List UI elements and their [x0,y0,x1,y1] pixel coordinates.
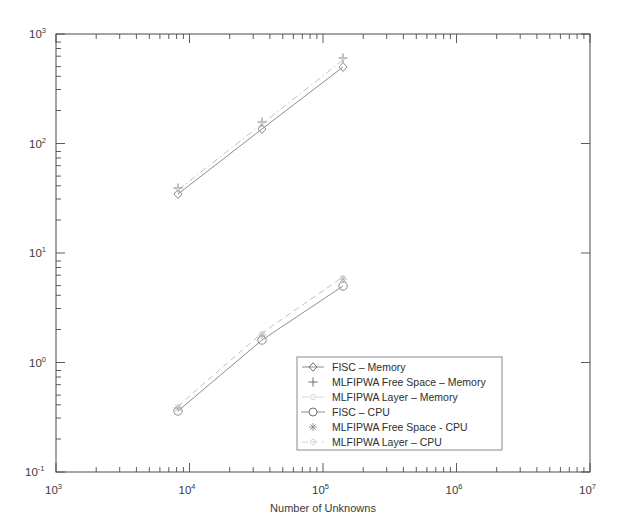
x-tick-base-4: 10 [579,484,592,496]
legend-label-5: MLFIPWA Layer – CPU [332,436,442,448]
legend-label-2: MLFIPWA Layer – Memory [332,391,458,403]
x-tick-base-1: 10 [179,484,192,496]
legend-label-1: MLFIPWA Free Space – Memory [332,376,486,388]
x-tick-base-3: 10 [446,484,459,496]
legend-item-mlfipwa-freespace-memory[interactable]: MLFIPWA Free Space – Memory [309,376,487,388]
legend-label-3: FISC – CPU [332,406,390,418]
x-tick-exp-2: 5 [325,482,329,491]
asterisk-icon [309,423,317,431]
y-tick-base-4: 10 [25,466,38,478]
x-axis-label: Number of Unknowns [270,502,376,514]
y-tick-exp-3: 0 [42,355,46,364]
x-tick-base-0: 10 [45,484,58,496]
y-tick-exp-1: 2 [42,136,46,145]
legend-label-4: MLFIPWA Free Space - CPU [332,421,468,433]
legend-label-0: FISC – Memory [332,361,406,373]
y-tick-exp-2: 1 [42,245,46,254]
y-tick-exp-4: -1 [38,464,45,473]
y-tick-base-2: 10 [29,247,42,259]
log-log-plot: 103 102 101 100 10-1 103 104 105 106 107… [0,0,625,527]
x-tick-exp-4: 7 [592,482,596,491]
x-tick-exp-1: 4 [191,482,195,491]
legend: FISC – Memory MLFIPWA Free Space – Memor… [297,357,502,450]
x-tick-exp-0: 3 [58,482,62,491]
y-tick-base-1: 10 [29,138,42,150]
y-tick-base-0: 10 [29,28,42,40]
y-tick-base-3: 10 [29,357,42,369]
y-tick-exp-0: 3 [42,26,46,35]
x-tick-base-2: 10 [312,484,325,496]
legend-item-mlfipwa-freespace-cpu[interactable]: MLFIPWA Free Space - CPU [309,421,468,433]
figure-container: 103 102 101 100 10-1 103 104 105 106 107… [0,0,625,527]
circle-icon [309,408,317,416]
x-tick-exp-3: 6 [458,482,462,491]
legend-item-fisc-cpu[interactable]: FISC – CPU [301,406,390,418]
